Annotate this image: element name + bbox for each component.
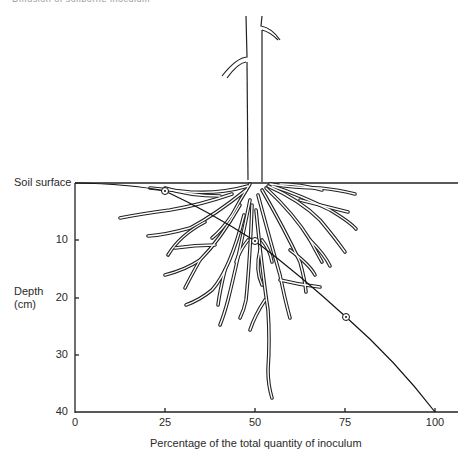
x-tick-0: 0 bbox=[55, 416, 95, 428]
plant-stem bbox=[222, 16, 280, 182]
diagram-canvas bbox=[0, 0, 471, 462]
y-tick-10: 10 bbox=[38, 233, 68, 245]
x-tick-25: 25 bbox=[145, 416, 185, 428]
x-tick-100: 100 bbox=[415, 416, 455, 428]
x-axis-label: Percentage of the total quantity of inoc… bbox=[150, 437, 362, 450]
y-tick-30: 30 bbox=[38, 348, 68, 360]
root-system bbox=[120, 184, 356, 398]
x-tick-50: 50 bbox=[235, 416, 275, 428]
y-axis-label-unit: (cm) bbox=[14, 298, 36, 311]
x-tick-75: 75 bbox=[325, 416, 365, 428]
soil-surface-label: Soil surface bbox=[14, 176, 71, 189]
y-tick-20: 20 bbox=[38, 291, 68, 303]
